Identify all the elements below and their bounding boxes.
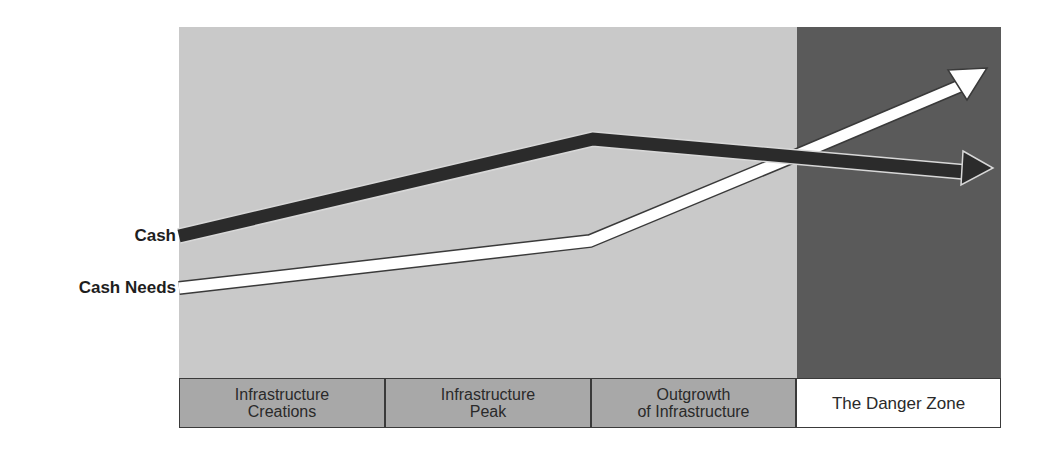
cash-label: Cash: [0, 226, 176, 246]
phase-danger-zone: The Danger Zone: [797, 379, 1000, 427]
phase-bar: Infrastructure Creations Infrastructure …: [179, 378, 1001, 428]
phase-infrastructure-peak: Infrastructure Peak: [386, 379, 592, 427]
plot-background: [179, 27, 797, 378]
phase-infrastructure-creations: Infrastructure Creations: [180, 379, 386, 427]
cash-needs-label: Cash Needs: [0, 278, 176, 298]
phase-outgrowth-of-infrastructure: Outgrowth of Infrastructure: [592, 379, 797, 427]
